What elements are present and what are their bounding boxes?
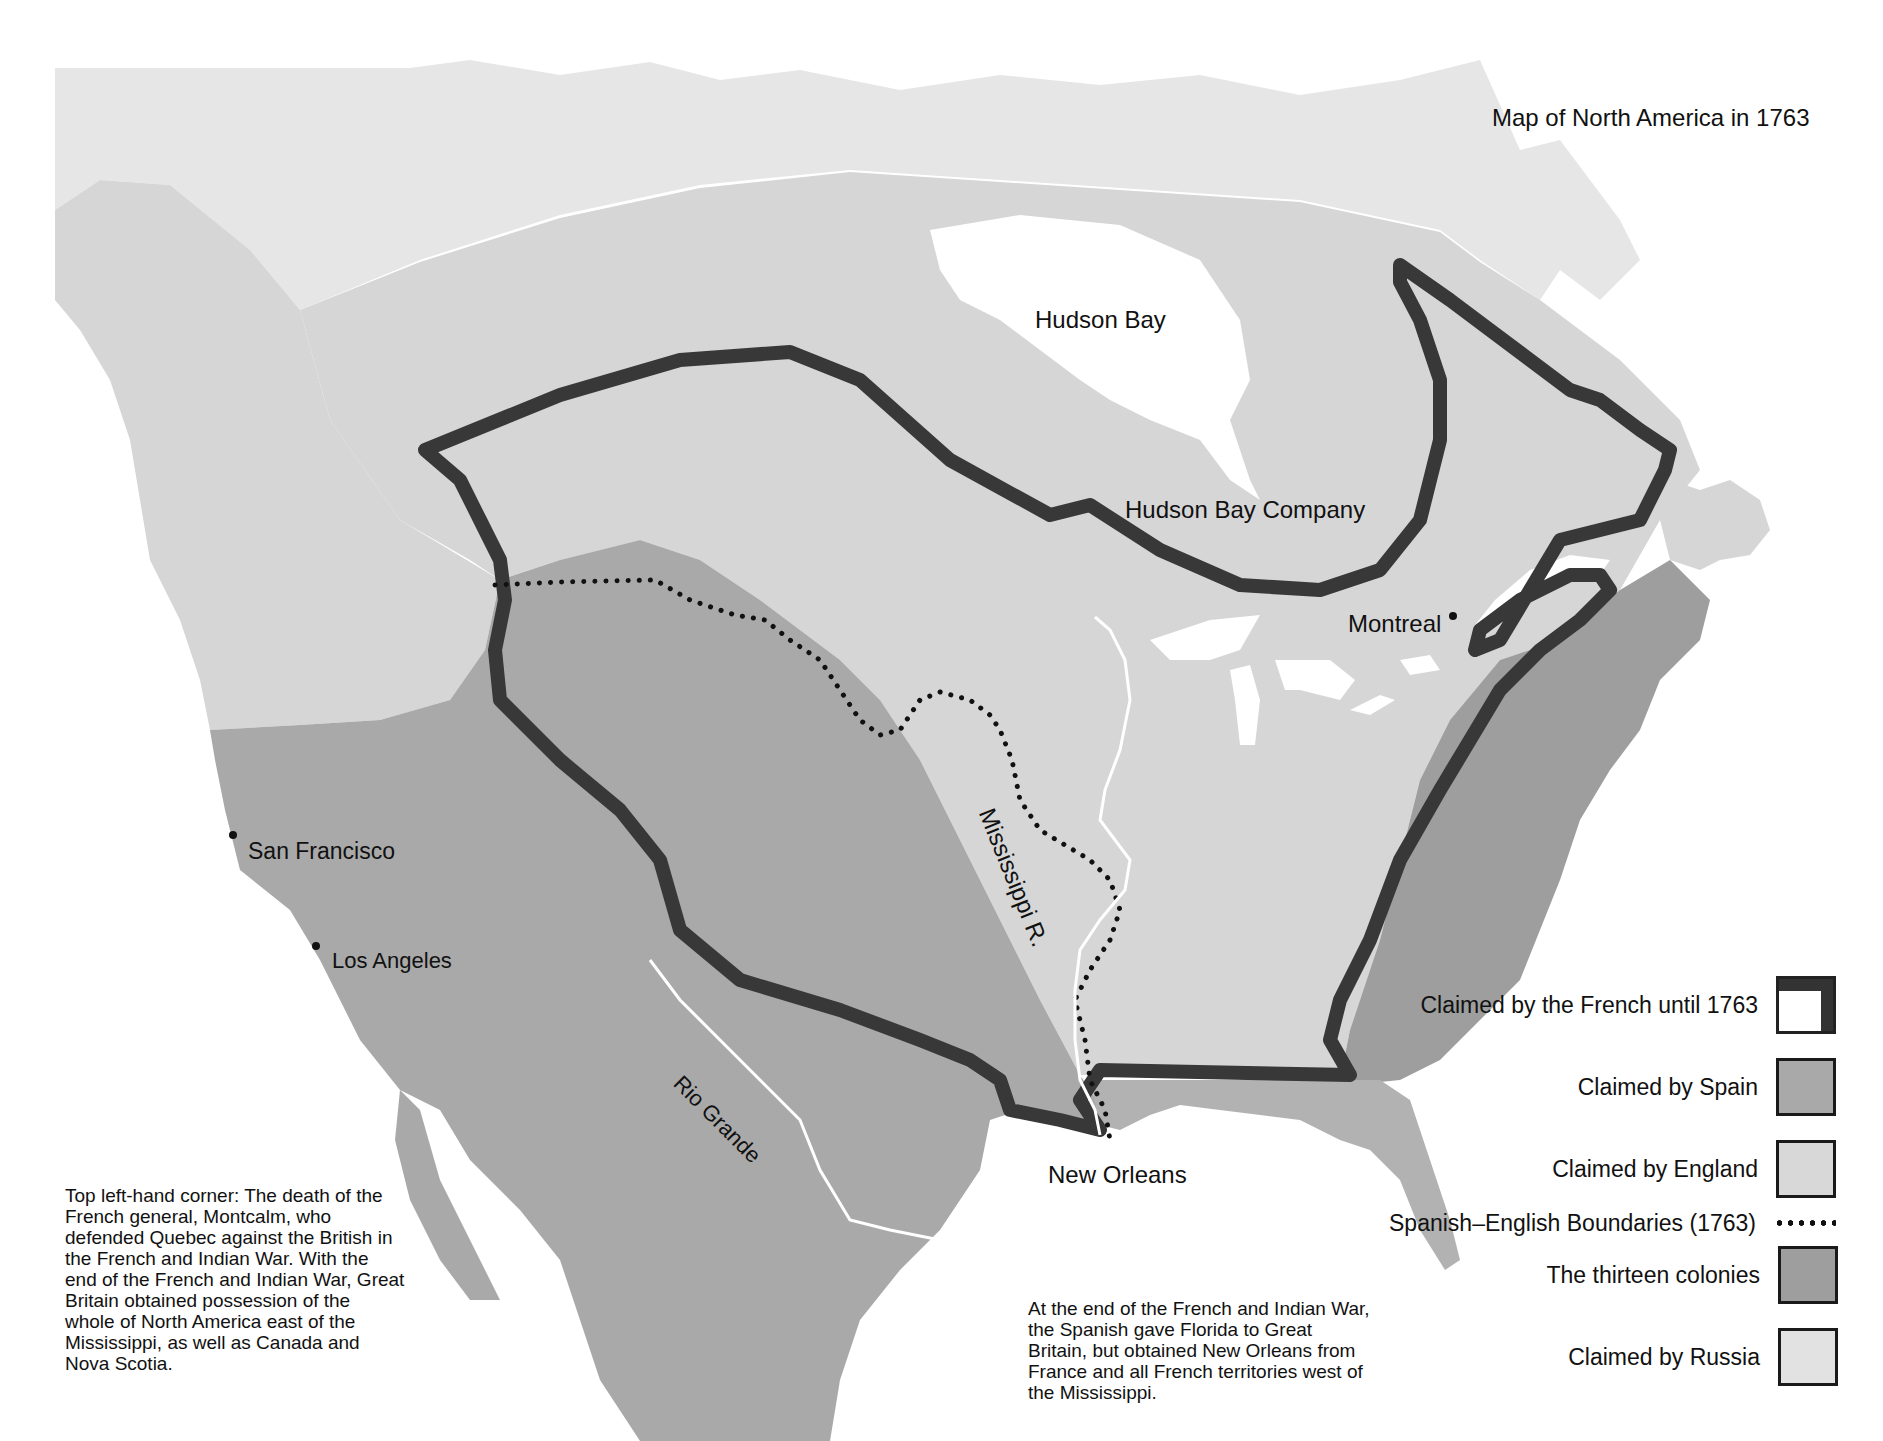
legend-item-boundary: Spanish–English Boundaries (1763) — [1389, 1208, 1836, 1238]
legend-label: Spanish–English Boundaries (1763) — [1389, 1210, 1756, 1237]
legend-label: Claimed by England — [1552, 1156, 1758, 1183]
label-hudson-bay-company: Hudson Bay Company — [1125, 498, 1365, 522]
label-hudson-bay: Hudson Bay — [1035, 308, 1166, 332]
colonies-swatch-icon — [1778, 1246, 1838, 1304]
legend-label: Claimed by Spain — [1578, 1074, 1758, 1101]
dotted-line-swatch-icon — [1774, 1219, 1836, 1227]
caption-bottom: At the end of the French and Indian War,… — [1028, 1298, 1373, 1403]
city-dot-san-francisco — [229, 831, 237, 839]
legend-item-england: Claimed by England — [1552, 1140, 1836, 1198]
label-san-francisco: San Francisco — [248, 840, 395, 863]
city-dot-los-angeles — [312, 942, 320, 950]
legend-label: The thirteen colonies — [1546, 1262, 1760, 1289]
label-los-angeles: Los Angeles — [332, 950, 452, 972]
map-title: Map of North America in 1763 — [1492, 106, 1810, 130]
legend-item-spain: Claimed by Spain — [1578, 1058, 1836, 1116]
legend-item-colonies: The thirteen colonies — [1546, 1246, 1838, 1304]
label-montreal: Montreal — [1348, 612, 1441, 636]
french-outline-swatch-icon — [1776, 976, 1836, 1034]
caption-left: Top left-hand corner: The death of the F… — [65, 1185, 405, 1374]
legend-item-french: Claimed by the French until 1763 — [1420, 976, 1836, 1034]
legend-label: Claimed by Russia — [1568, 1344, 1760, 1371]
label-new-orleans: New Orleans — [1048, 1163, 1187, 1187]
legend-item-russia: Claimed by Russia — [1568, 1328, 1838, 1386]
russia-swatch-icon — [1778, 1328, 1838, 1386]
city-dot-montreal — [1449, 612, 1457, 620]
spain-swatch-icon — [1776, 1058, 1836, 1116]
england-swatch-icon — [1776, 1140, 1836, 1198]
legend-label: Claimed by the French until 1763 — [1420, 992, 1758, 1019]
